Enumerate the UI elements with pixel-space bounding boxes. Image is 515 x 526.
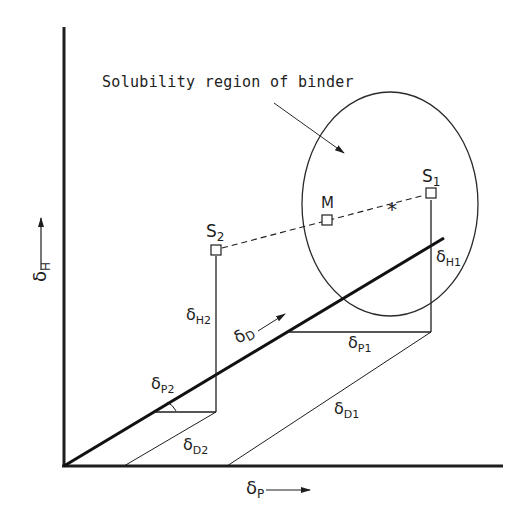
label-dP2: δP2 <box>151 374 174 396</box>
point-s1 <box>426 188 436 198</box>
s1-construction <box>227 200 431 466</box>
label-s2: S2 <box>206 221 224 244</box>
label-s1: S1 <box>422 166 440 189</box>
label-dH2: δH2 <box>186 305 211 327</box>
dD1-line <box>227 332 431 466</box>
svg-text:δD: δD <box>230 320 258 349</box>
label-m: M <box>321 194 334 212</box>
x-axis-label: δP <box>246 477 264 501</box>
label-dD2: δD2 <box>183 435 208 457</box>
solubility-region-annotation: Solubility region of binder <box>102 73 354 91</box>
mixture-star-icon: * <box>387 197 397 221</box>
label-dD: δD <box>230 320 258 349</box>
y-axis-symbol: δ <box>29 271 50 282</box>
point-s2 <box>211 245 221 255</box>
dispersion-axis-line <box>64 238 444 466</box>
svg-text:δP: δP <box>246 477 264 501</box>
solubility-diagram: δH δP Solubility region of binder δD * S… <box>0 0 515 526</box>
x-axis-symbol: δ <box>246 477 257 498</box>
point-m <box>322 215 332 225</box>
label-dP1: δP1 <box>348 333 371 355</box>
annotation-arrow-icon <box>274 103 344 153</box>
label-dH1: δH1 <box>436 247 461 269</box>
x-axis-subscript: P <box>257 487 264 501</box>
label-dD1: δD1 <box>334 399 359 421</box>
dD-arrow-icon <box>258 314 285 331</box>
s2-construction <box>124 256 216 466</box>
